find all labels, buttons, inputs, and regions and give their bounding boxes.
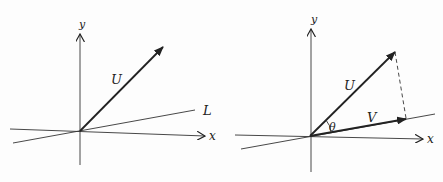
diagram-canvas: y x U L y x U V θ — [0, 0, 443, 182]
x-axis-label: x — [209, 129, 216, 143]
projection-diagram: y x U L y x U V θ — [0, 0, 443, 182]
left-panel: y x U L — [10, 18, 216, 165]
y-axis-label: y — [310, 13, 318, 26]
x-axis — [10, 129, 205, 136]
angle-theta-label: θ — [329, 121, 336, 134]
vector-u-label: U — [111, 72, 123, 87]
vector-v-label: V — [367, 110, 378, 125]
line-l — [13, 110, 195, 143]
y-axis-label: y — [78, 18, 86, 31]
line-l-label: L — [202, 103, 212, 118]
projection-dashed-line — [395, 52, 406, 118]
x-axis-label: x — [427, 132, 434, 146]
right-panel: y x U V θ — [235, 13, 435, 172]
x-axis — [235, 135, 423, 139]
vector-u-label: U — [344, 78, 356, 93]
